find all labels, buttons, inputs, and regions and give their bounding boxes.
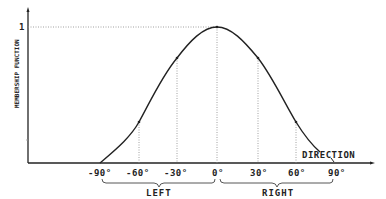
point-60 (295, 121, 298, 124)
point-zero (216, 26, 219, 29)
x-axis-arrow-icon (370, 162, 375, 165)
x-tick-label: 60° (288, 168, 306, 178)
membership-function-diagram: 1 MEMBERSHIP FUNCTION DIRECTION -90° -60… (0, 0, 386, 199)
x-tick-label: -90° (88, 168, 112, 178)
x-tick-label: 30° (250, 168, 268, 178)
point-30 (257, 57, 260, 60)
point-minus30 (176, 57, 179, 60)
right-brace (220, 179, 333, 187)
x-tick-label: 90° (328, 168, 346, 178)
x-tick-label: -30° (164, 168, 188, 178)
left-brace (102, 179, 215, 187)
point-minus60 (138, 121, 141, 124)
y-tick-label-one: 1 (19, 22, 25, 32)
membership-curve (100, 27, 320, 163)
right-label: RIGHT (262, 188, 294, 198)
y-axis-arrow-icon (27, 7, 30, 12)
y-axis-label: MEMBERSHIP FUNCTION (13, 39, 20, 108)
x-tick-label: -60° (126, 168, 150, 178)
x-tick-label: 0° (212, 168, 224, 178)
x-axis-label: DIRECTION (302, 150, 355, 160)
left-label: LEFT (146, 188, 172, 198)
